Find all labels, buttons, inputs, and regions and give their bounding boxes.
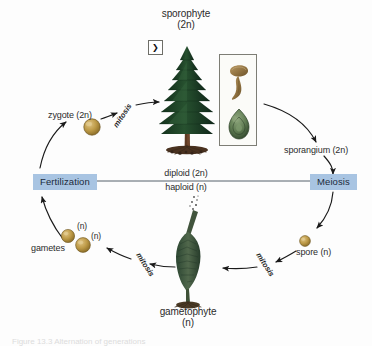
gametes-label: gametes — [31, 243, 65, 253]
fertilization-band[interactable]: Fertilization — [33, 174, 97, 190]
arrow-fertilization-to-zygote — [40, 122, 66, 168]
sporangium-label: sporangium (2n) — [284, 145, 348, 155]
sporophyte-ploidy-text: (2n) — [162, 19, 210, 30]
fern-gametophyte-icon — [175, 195, 201, 308]
fertilization-label: Fertilization — [40, 176, 90, 187]
gamete-cells-icon — [61, 229, 90, 252]
spore-cell-icon — [300, 236, 311, 247]
haploid-label: haploid (n) — [165, 182, 206, 192]
arrow-sporophyte-to-sporangium — [264, 104, 316, 142]
sporophyte-label-text: sporophyte — [162, 8, 210, 19]
arrow-mitosis-to-gametes — [107, 248, 131, 259]
sporophyte-label: sporophyte (2n) — [162, 8, 210, 30]
arrow-mitosis-to-sporophyte — [136, 102, 159, 105]
spore-label: spore (n) — [296, 247, 331, 257]
life-cycle-diagram: ❯ sporophyte (2n) zygote (2n) sporangiu — [0, 0, 372, 346]
arrow-gametes-to-fertilization — [42, 197, 63, 239]
zygote-cell-icon — [84, 119, 100, 135]
arrow-gametophyte-to-mitosis — [150, 264, 175, 267]
mini-marker-icon: ❯ — [152, 43, 159, 52]
sporangium-inset-box — [219, 54, 257, 146]
arrow-meiosis-to-spore — [317, 192, 333, 228]
diploid-label: diploid (2n) — [164, 168, 207, 178]
gamete-ploidy-label-1: (n) — [77, 222, 87, 232]
meiosis-label: Meiosis — [317, 176, 350, 187]
gamete-ploidy-label-2: (n) — [91, 232, 101, 242]
meiosis-band[interactable]: Meiosis — [310, 174, 357, 190]
inset-photo-vectors — [220, 55, 258, 147]
gametophyte-ploidy-text: (n) — [160, 317, 217, 328]
spore-capsule-photo-icon — [229, 109, 249, 139]
figure-caption: Figure 13.3 Alternation of generations — [12, 337, 145, 346]
mini-marker-box: ❯ — [148, 40, 163, 55]
zygote-label: zygote (2n) — [48, 110, 92, 120]
gametophyte-label: gametophyte (n) — [160, 306, 217, 328]
arrow-sporangium-to-meiosis — [324, 156, 333, 174]
gametophyte-label-text: gametophyte — [160, 306, 217, 317]
arrow-mitosis-to-gametophyte — [223, 267, 257, 269]
arrow-spore-to-mitosis — [276, 251, 296, 262]
conifer-tree-icon — [159, 46, 215, 155]
sporangium-photo-icon — [230, 65, 248, 99]
